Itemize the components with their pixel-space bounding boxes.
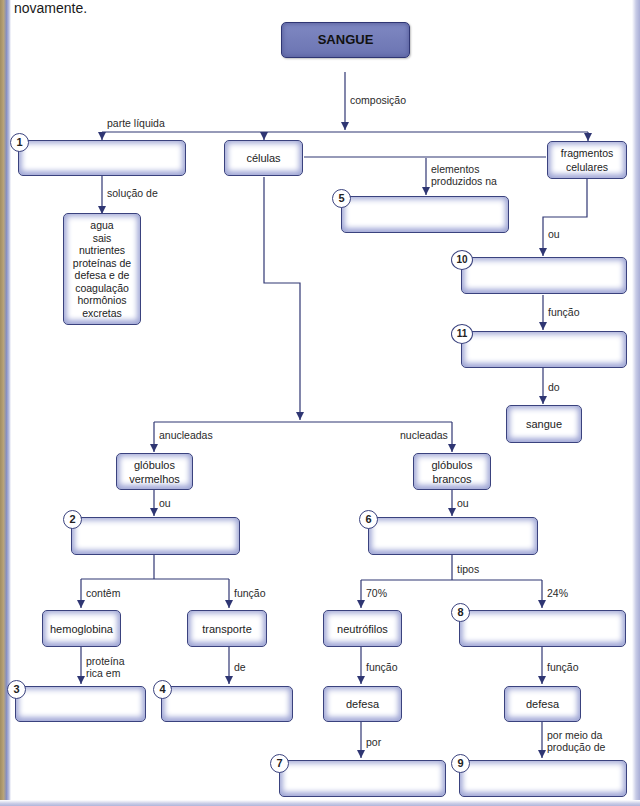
- label-funcao-neutrofilos: função: [366, 661, 398, 674]
- plasma-item: proteínas de: [73, 257, 131, 270]
- plasma-item: hormônios: [77, 294, 126, 307]
- label-24-percent: 24%: [547, 587, 568, 600]
- label-do: do: [548, 381, 560, 394]
- sangue-title: SANGUE: [318, 33, 374, 47]
- label-produzidos-na: produzidos na: [431, 175, 497, 188]
- label-solucao-de: solução de: [107, 187, 158, 200]
- label-funcao-2: função: [234, 587, 266, 600]
- answer-box-9[interactable]: [459, 760, 627, 797]
- answer-box-10[interactable]: [461, 257, 627, 294]
- label-por: por: [366, 736, 381, 749]
- transporte-box: transporte: [187, 610, 267, 647]
- defesa-right-box: defesa: [504, 686, 581, 722]
- label-producao-de: produção de: [547, 741, 605, 754]
- label-tipos: tipos: [457, 563, 479, 576]
- plasma-item: coagulação: [75, 282, 129, 295]
- number-badge-9: 9: [451, 754, 470, 773]
- label-parte-liquida: parte líquida: [107, 117, 165, 130]
- label-70-percent: 70%: [366, 587, 387, 600]
- fragmentos-celulares-box: fragmentos celulares: [547, 141, 627, 179]
- answer-box-5[interactable]: [341, 196, 509, 233]
- sangue-small-box: sangue: [506, 405, 582, 443]
- answer-box-11[interactable]: [461, 331, 627, 368]
- label-ou-fragmentos: ou: [548, 228, 560, 241]
- answer-box-3[interactable]: [15, 686, 146, 722]
- label-nucleadas: nucleadas: [400, 429, 448, 442]
- number-badge-3: 3: [7, 680, 26, 699]
- label-rica-em: rica em: [86, 667, 120, 680]
- globulos-vermelhos-box: glóbulos vermelhos: [116, 453, 193, 490]
- label-contem: contêm: [86, 587, 120, 600]
- plasma-components-box: agua sais nutrientes proteínas de defesa…: [63, 213, 141, 325]
- number-badge-5: 5: [332, 189, 351, 208]
- number-badge-10: 10: [451, 250, 473, 270]
- label-funcao-8: função: [547, 661, 579, 674]
- globulos-brancos-box: glóbulos brancos: [413, 453, 491, 490]
- answer-box-1[interactable]: [18, 140, 186, 176]
- answer-box-7[interactable]: [279, 760, 446, 797]
- number-badge-8: 8: [451, 603, 470, 622]
- number-badge-2: 2: [63, 510, 82, 529]
- plasma-item: excretas: [82, 307, 122, 320]
- number-badge-6: 6: [359, 510, 378, 529]
- label-composicao: composição: [350, 94, 406, 107]
- label-anucleadas: anucleadas: [159, 429, 213, 442]
- celulas-box: células: [224, 140, 303, 176]
- answer-box-6[interactable]: [368, 517, 538, 555]
- label-funcao-10: função: [548, 306, 580, 319]
- answer-box-4[interactable]: [161, 686, 293, 722]
- plasma-item: agua: [90, 219, 113, 232]
- neutrofilos-box: neutrófilos: [323, 610, 402, 647]
- sangue-main-box: SANGUE: [281, 22, 410, 58]
- answer-box-2[interactable]: [71, 517, 240, 555]
- number-badge-11: 11: [451, 324, 473, 344]
- label-ou-brancos: ou: [457, 497, 469, 510]
- hemoglobina-box: hemoglobina: [42, 610, 121, 647]
- number-badge-1: 1: [10, 133, 29, 152]
- plasma-item: sais: [93, 232, 112, 245]
- plasma-item: defesa e de: [75, 269, 130, 282]
- defesa-left-box: defesa: [323, 686, 402, 722]
- answer-box-8[interactable]: [459, 610, 626, 647]
- number-badge-4: 4: [153, 680, 172, 699]
- plasma-item: nutrientes: [79, 244, 125, 257]
- label-de: de: [234, 661, 246, 674]
- label-ou-vermelhos: ou: [159, 497, 171, 510]
- page: novamente.: [0, 0, 640, 806]
- number-badge-7: 7: [270, 754, 289, 773]
